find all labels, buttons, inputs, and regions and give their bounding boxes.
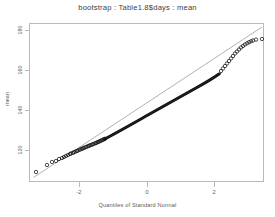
data-point (237, 48, 240, 51)
y-axis-label: mean (4, 84, 10, 114)
ytick-label-180: 180 (17, 22, 23, 38)
ytick-label-160: 160 (17, 62, 23, 78)
ytick-label-140: 140 (17, 102, 23, 118)
data-point (233, 52, 236, 55)
dense-point-band-overlay (106, 73, 220, 138)
upper-tail-point-group (219, 37, 263, 72)
data-point (45, 163, 48, 166)
data-point (50, 160, 53, 163)
reference-line (34, 27, 263, 178)
qq-plot-figure: bootstrap : Table1.8$days : mean (0, 0, 275, 217)
x-axis-label: Quantiles of Standard Normal (0, 202, 275, 208)
data-point-group (34, 137, 106, 174)
xtick-label-neg2: -2 (71, 189, 87, 195)
data-point (235, 50, 238, 53)
data-point (34, 170, 37, 173)
data-point (260, 37, 263, 40)
xtick-label-0: 0 (139, 189, 155, 195)
xtick-label-2: 2 (206, 189, 222, 195)
plot-canvas (0, 0, 275, 217)
ytick-label-120: 120 (17, 142, 23, 158)
